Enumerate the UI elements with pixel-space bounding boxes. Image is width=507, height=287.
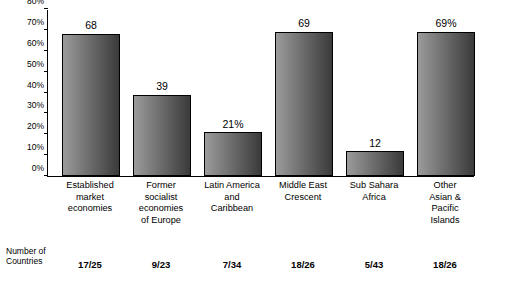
x-axis-label-line: Other [410, 180, 480, 192]
y-tick-mark [44, 8, 48, 9]
x-axis-label-line: Islands [410, 215, 480, 227]
bar-slot: 39 [133, 10, 191, 176]
x-axis-label-line: Caribbean [197, 203, 267, 215]
bar-chart: 80% 70% 60% 50% 40% 30% 20% 10% 0% 68 39 [0, 0, 507, 287]
x-axis-label-former-socialist-economies-of-europe: Former socialist economies of Europe [126, 180, 196, 226]
y-axis-tick-label: 40% [4, 81, 44, 89]
y-axis-tick-label: 0% [4, 164, 44, 172]
x-axis-label-line: Africa [339, 192, 409, 204]
y-axis-tick-label: 30% [4, 101, 44, 109]
bar-sub-sahara-africa[interactable] [346, 151, 404, 176]
x-axis-label-established-market-economies: Established market economies [55, 180, 125, 215]
bar-slot: 68 [62, 10, 120, 176]
bar-value-label: 12 [346, 137, 404, 149]
x-axis-label-line: Established [55, 180, 125, 192]
x-axis-label-line: of Europe [126, 215, 196, 227]
footer-value-sub-sahara-africa: 5/43 [339, 259, 409, 270]
y-axis-tick-label: 10% [4, 143, 44, 151]
x-axis-label-line: Sub Sahara [339, 180, 409, 192]
plot-area: 80% 70% 60% 50% 40% 30% 20% 10% 0% 68 39 [47, 10, 474, 177]
x-axis-label-line: Pacific [410, 203, 480, 215]
bar-established-market-economies[interactable] [62, 34, 120, 176]
footer-row-title-line: Number of [6, 246, 66, 256]
x-axis-label-line: Asian & [410, 192, 480, 204]
bar-value-label: 69% [417, 17, 475, 29]
footer-value-other-asian-and-pacific-islands: 18/26 [410, 259, 480, 270]
footer-value-former-socialist-economies-of-europe: 9/23 [126, 259, 196, 270]
x-axis-label-other-asian-and-pacific-islands: Other Asian & Pacific Islands [410, 180, 480, 226]
footer-value-middle-east-crescent: 18/26 [268, 259, 338, 270]
x-axis-label-line: Latin America [197, 180, 267, 192]
bar-former-socialist-economies-of-europe[interactable] [133, 95, 191, 176]
bars-layer: 68 39 21% 69 12 69% [48, 10, 474, 176]
y-axis-tick-label: 60% [4, 39, 44, 47]
x-axis-label-line: market [55, 192, 125, 204]
bar-slot: 12 [346, 10, 404, 176]
x-axis-label-latin-america-and-caribbean: Latin America and Caribbean [197, 180, 267, 215]
x-axis-label-line: socialist [126, 192, 196, 204]
footer-values-row: 17/25 9/23 7/34 18/26 5/43 18/26 [47, 259, 474, 273]
y-axis-tick-label: 20% [4, 122, 44, 130]
bar-slot: 69% [417, 10, 475, 176]
x-axis-label-line: economies [126, 203, 196, 215]
x-axis-label-line: Crescent [268, 192, 338, 204]
x-axis-label-line: Former [126, 180, 196, 192]
bar-other-asian-and-pacific-islands[interactable] [417, 32, 475, 176]
y-axis-tick-label: 50% [4, 60, 44, 68]
bar-middle-east-crescent[interactable] [275, 32, 333, 176]
x-axis-label-line: and [197, 192, 267, 204]
x-axis-label-middle-east-crescent: Middle East Crescent [268, 180, 338, 203]
bar-slot: 21% [204, 10, 262, 176]
y-axis-tick-label: 80% [4, 0, 44, 5]
footer-value-latin-america-and-caribbean: 7/34 [197, 259, 267, 270]
bar-value-label: 21% [204, 118, 262, 130]
x-axis-labels: Established market economies Former soci… [47, 180, 474, 238]
bar-slot: 69 [275, 10, 333, 176]
x-axis-label-line: economies [55, 203, 125, 215]
bar-value-label: 39 [133, 80, 191, 92]
bar-value-label: 69 [275, 17, 333, 29]
y-axis-tick-label: 70% [4, 18, 44, 26]
x-axis-label-line: Middle East [268, 180, 338, 192]
footer-value-established-market-economies: 17/25 [55, 259, 125, 270]
bar-value-label: 68 [62, 19, 120, 31]
x-axis-label-sub-sahara-africa: Sub Sahara Africa [339, 180, 409, 203]
bar-latin-america-and-caribbean[interactable] [204, 132, 262, 176]
